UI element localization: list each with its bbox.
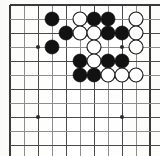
- stone-white[interactable]: [129, 68, 143, 82]
- stone-black[interactable]: [59, 26, 73, 40]
- star-point: [120, 115, 124, 119]
- stone-black[interactable]: [45, 12, 59, 26]
- stone-black[interactable]: [73, 54, 87, 68]
- stone-black[interactable]: [45, 40, 59, 54]
- stone-white[interactable]: [87, 26, 101, 40]
- star-point: [36, 45, 40, 49]
- stone-black[interactable]: [101, 54, 115, 68]
- star-point: [120, 45, 124, 49]
- stone-black[interactable]: [73, 68, 87, 82]
- stone-black[interactable]: [101, 12, 115, 26]
- stone-white[interactable]: [87, 40, 101, 54]
- stone-black[interactable]: [115, 54, 129, 68]
- stone-black[interactable]: [87, 68, 101, 82]
- stone-white[interactable]: [101, 68, 115, 82]
- stone-black[interactable]: [115, 26, 129, 40]
- stone-white[interactable]: [129, 40, 143, 54]
- stone-white[interactable]: [87, 54, 101, 68]
- stone-black[interactable]: [101, 26, 115, 40]
- stone-white[interactable]: [115, 68, 129, 82]
- star-point: [36, 115, 40, 119]
- stone-black[interactable]: [87, 12, 101, 26]
- stone-white[interactable]: [73, 26, 87, 40]
- stone-white[interactable]: [129, 26, 143, 40]
- stone-white[interactable]: [129, 12, 143, 26]
- goban-canvas[interactable]: [0, 0, 160, 156]
- stone-white[interactable]: [73, 12, 87, 26]
- go-board-diagram: [0, 0, 160, 156]
